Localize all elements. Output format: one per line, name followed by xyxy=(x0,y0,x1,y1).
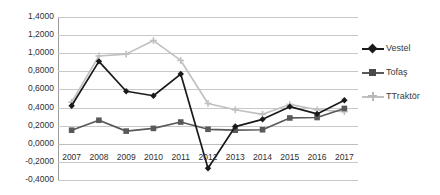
y-axis-tick-label: 0,0000 xyxy=(2,139,54,148)
diamond-marker-icon xyxy=(259,116,265,122)
x-axis-tick-label: 2014 xyxy=(253,152,272,163)
y-axis-tick-label: 0,4000 xyxy=(2,103,54,112)
y-axis-tick-label: 0,8000 xyxy=(2,66,54,75)
square-marker-icon xyxy=(369,69,376,76)
x-axis-tick-label: 2016 xyxy=(308,152,327,163)
diamond-marker-icon xyxy=(368,43,378,53)
square-marker-icon xyxy=(287,115,293,121)
x-axis-tick-label: 2013 xyxy=(226,152,245,163)
legend-label-tofas: Tofaş xyxy=(386,67,408,77)
square-marker-icon xyxy=(205,126,211,132)
x-axis-tick-label: 2008 xyxy=(89,152,108,163)
series-tofaş xyxy=(69,106,347,134)
y-axis-tick-label: 1,2000 xyxy=(2,30,54,39)
y-axis-tick-label: 0,2000 xyxy=(2,121,54,130)
legend-label-ttraktor: TTraktör xyxy=(386,91,420,101)
square-marker-icon xyxy=(69,127,75,133)
square-marker-icon xyxy=(123,128,129,134)
legend-item-tofas[interactable]: Tofaş xyxy=(362,60,440,84)
gridline xyxy=(58,180,358,181)
cross-marker-icon xyxy=(232,106,239,113)
square-marker-icon xyxy=(151,126,157,132)
legend-swatch-vestel xyxy=(362,42,384,54)
legend-label-vestel: Vestel xyxy=(386,43,411,53)
y-axis-labels: 1,40001,20001,00000,80000,60000,40000,20… xyxy=(0,0,54,195)
diamond-marker-icon xyxy=(341,97,347,103)
y-axis-tick-label: -0,4000 xyxy=(2,175,54,184)
y-axis-tick-label: 0,6000 xyxy=(2,84,54,93)
legend-swatch-tofas xyxy=(362,66,384,78)
square-marker-icon xyxy=(260,127,266,133)
x-axis-tick-label: 2011 xyxy=(172,152,190,163)
line-chart: 1,40001,20001,00000,80000,60000,40000,20… xyxy=(0,0,440,195)
x-axis-tick-label: 2007 xyxy=(62,152,81,163)
chart-legend: Vestel Tofaş TTraktör xyxy=(362,36,440,108)
x-axis-tick-label: 2012 xyxy=(199,152,218,163)
x-axis-tick-label: 2017 xyxy=(335,152,354,163)
x-axis-tick-label: 2010 xyxy=(144,152,163,163)
square-marker-icon xyxy=(342,106,348,112)
legend-item-vestel[interactable]: Vestel xyxy=(362,36,440,60)
series-ttraktör xyxy=(68,37,348,118)
cross-marker-icon xyxy=(368,92,377,101)
y-axis-tick-label: 1,4000 xyxy=(2,12,54,21)
legend-swatch-ttraktor xyxy=(362,90,384,102)
cross-marker-icon xyxy=(123,51,130,58)
x-axis-tick-label: 2009 xyxy=(117,152,136,163)
x-axis-labels: 2007200820092010201120122013201420152016… xyxy=(58,152,358,164)
y-axis-tick-label: -0,2000 xyxy=(2,157,54,166)
square-marker-icon xyxy=(178,119,184,125)
x-axis-tick-label: 2015 xyxy=(280,152,299,163)
y-axis-tick-label: 1,0000 xyxy=(2,48,54,57)
square-marker-icon xyxy=(96,117,102,123)
legend-item-ttraktor[interactable]: TTraktör xyxy=(362,84,440,108)
